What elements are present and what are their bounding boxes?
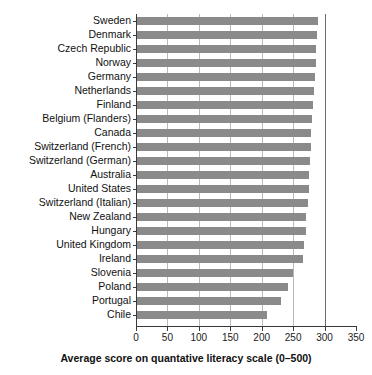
category-label: Denmark — [0, 28, 131, 40]
bar — [136, 227, 306, 235]
bar-chart: SwedenDenmarkCzech RepublicNorwayGermany… — [0, 0, 372, 375]
x-tick-100 — [199, 326, 200, 331]
x-tick-50 — [167, 326, 168, 331]
category-label: Switzerland (German) — [0, 154, 131, 166]
bar — [136, 311, 267, 319]
bar — [136, 73, 315, 81]
bar — [136, 101, 313, 109]
bar — [136, 241, 304, 249]
bar — [136, 143, 311, 151]
x-tick-250 — [293, 326, 294, 331]
bar — [136, 171, 309, 179]
bar — [136, 283, 288, 291]
category-label: Switzerland (French) — [0, 140, 131, 152]
category-label: New Zealand — [0, 210, 131, 222]
category-label: Finland — [0, 98, 131, 110]
category-label: Poland — [0, 280, 131, 292]
bar — [136, 213, 306, 221]
x-tick-label-300: 300 — [316, 332, 333, 343]
category-label: Belgium (Flanders) — [0, 112, 131, 124]
x-tick-label-200: 200 — [253, 332, 270, 343]
x-tick-label-50: 50 — [162, 332, 173, 343]
bar — [136, 255, 303, 263]
bar — [136, 31, 317, 39]
x-tick-300 — [325, 326, 326, 331]
x-tick-150 — [230, 326, 231, 331]
category-label: United Kingdom — [0, 238, 131, 250]
x-tick-200 — [262, 326, 263, 331]
category-label: Ireland — [0, 252, 131, 264]
category-label: Netherlands — [0, 84, 131, 96]
category-label: Hungary — [0, 224, 131, 236]
bar — [136, 199, 308, 207]
category-label: Slovenia — [0, 266, 131, 278]
bar — [136, 17, 318, 25]
bar — [136, 185, 309, 193]
bar — [136, 87, 314, 95]
gridline-300 — [325, 14, 326, 326]
y-axis-line — [136, 14, 137, 326]
bar — [136, 157, 310, 165]
category-label: Chile — [0, 308, 131, 320]
x-axis-line — [136, 326, 356, 327]
category-label: Germany — [0, 70, 131, 82]
category-label: Canada — [0, 126, 131, 138]
x-tick-label-250: 250 — [285, 332, 302, 343]
bar — [136, 115, 312, 123]
category-label: Switzerland (Italian) — [0, 196, 131, 208]
bar — [136, 129, 311, 137]
bar — [136, 269, 293, 277]
x-axis-title: Average score on quantative literacy sca… — [0, 352, 372, 364]
category-label: United States — [0, 182, 131, 194]
x-tick-label-0: 0 — [133, 332, 139, 343]
bar — [136, 59, 316, 67]
x-tick-350 — [356, 326, 357, 331]
x-tick-label-350: 350 — [348, 332, 365, 343]
x-tick-label-100: 100 — [191, 332, 208, 343]
x-tick-0 — [136, 326, 137, 331]
category-label: Norway — [0, 56, 131, 68]
category-label: Sweden — [0, 14, 131, 26]
category-label: Portugal — [0, 294, 131, 306]
category-label: Czech Republic — [0, 42, 131, 54]
bar — [136, 45, 316, 53]
bar — [136, 297, 281, 305]
category-label: Australia — [0, 168, 131, 180]
x-tick-label-150: 150 — [222, 332, 239, 343]
